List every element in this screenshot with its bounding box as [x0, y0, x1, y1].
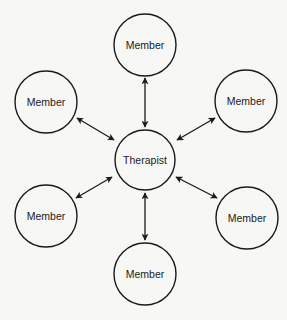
node-label: Member [228, 212, 267, 224]
bidirectional-arrow-member-upper-right [177, 118, 215, 140]
node-label: Member [227, 95, 266, 107]
node-label: Member [126, 268, 165, 280]
member-lower-left-node: Member [15, 185, 77, 247]
nodes: TherapistMemberMemberMemberMemberMemberM… [15, 14, 278, 305]
member-bottom-node: Member [114, 243, 176, 305]
node-label: Member [27, 210, 66, 222]
therapist-node: Therapist [115, 130, 175, 190]
member-top-node: Member [114, 14, 176, 76]
bidirectional-arrow-member-lower-left [76, 177, 112, 198]
node-label: Therapist [123, 154, 167, 166]
member-lower-right-node: Member [216, 187, 278, 249]
member-upper-right-node: Member [215, 70, 277, 132]
node-label: Member [27, 96, 66, 108]
bidirectional-arrow-member-upper-left [77, 118, 114, 140]
therapist-member-diagram: TherapistMemberMemberMemberMemberMemberM… [0, 0, 287, 320]
member-upper-left-node: Member [15, 71, 77, 133]
node-label: Member [126, 39, 165, 51]
bidirectional-arrow-member-lower-right [176, 177, 217, 198]
